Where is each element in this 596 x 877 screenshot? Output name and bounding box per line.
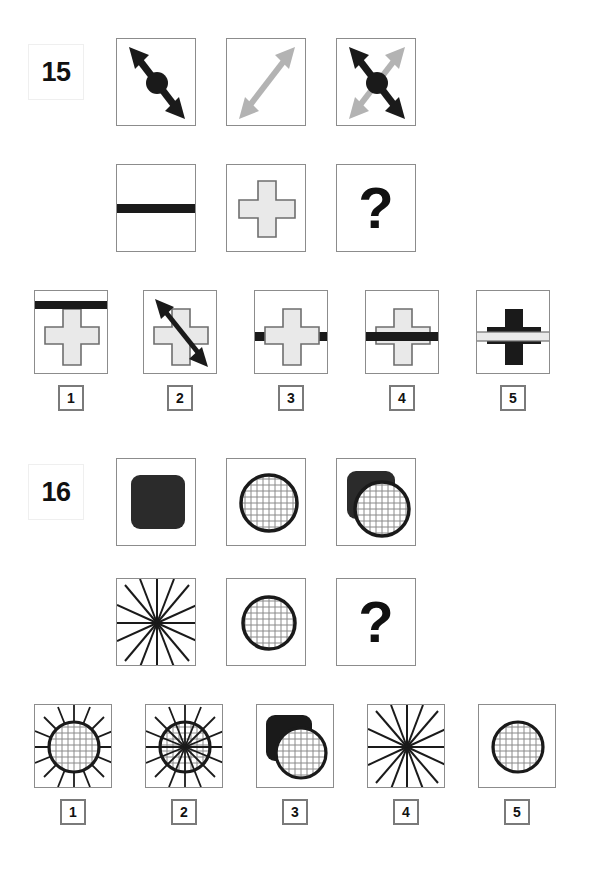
grid-circle-only-icon [479,705,556,788]
starburst-icon [368,705,445,788]
combined-arrows-icon [337,39,416,126]
item16-matrix-cell-3 [336,458,416,546]
item15-matrix-cell-5 [226,164,306,252]
grid-circle-with-outer-rays-icon [35,705,112,788]
item16-matrix-cell-2 [226,458,306,546]
dark-horizontal-bar-icon [117,165,196,252]
item16-option-label-4[interactable]: 4 [393,799,419,825]
grid-circle-icon [227,579,306,666]
item16-matrix-cell-5 [226,578,306,666]
item15-matrix-cell-1 [116,38,196,126]
item16-matrix-cell-4 [116,578,196,666]
square-and-grid-circle-icon [257,705,334,788]
item15-matrix-cell-4 [116,164,196,252]
grid-circle-icon [227,459,306,546]
dark-cross-with-light-bar-icon [477,291,550,374]
item15-matrix-cell-3 [336,38,416,126]
item16-option-label-1[interactable]: 1 [60,799,86,825]
item15-option-label-4[interactable]: 4 [389,385,415,411]
item16-option-1[interactable] [34,704,112,788]
starburst-icon [117,579,196,666]
item16-matrix-cell-1 [116,458,196,546]
question-mark-label: ? [337,165,415,251]
item15-option-label-2[interactable]: 2 [167,385,193,411]
item16-matrix-cell-6-question: ? [336,578,416,666]
item15-option-2[interactable] [143,290,217,374]
item16-option-label-3[interactable]: 3 [282,799,308,825]
dark-rounded-square-icon [117,459,196,546]
light-cross-icon [227,165,306,252]
item15-matrix-cell-6-question: ? [336,164,416,252]
item15-option-label-5[interactable]: 5 [500,385,526,411]
question-mark-label: ? [337,579,415,665]
item15-option-5[interactable] [476,290,550,374]
cross-with-diagonal-arrow-icon [144,291,217,374]
dark-arrow-with-dot-icon [117,39,196,126]
item16-option-4[interactable] [367,704,445,788]
item16-option-label-2[interactable]: 2 [171,799,197,825]
cross-with-bar-on-top-edge-icon [35,291,108,374]
item-number-15: 15 [28,44,84,100]
item15-option-label-3[interactable]: 3 [278,385,304,411]
square-and-circle-icon [337,459,416,546]
item16-option-label-5[interactable]: 5 [504,799,530,825]
item15-matrix-cell-2 [226,38,306,126]
grid-circle-with-full-starburst-icon [146,705,223,788]
bar-in-front-of-cross-icon [366,291,439,374]
item15-option-4[interactable] [365,290,439,374]
item16-option-2[interactable] [145,704,223,788]
item16-option-5[interactable] [478,704,556,788]
item15-option-3[interactable] [254,290,328,374]
bar-behind-cross-icon [255,291,328,374]
test-page: 15 [0,0,596,877]
item16-option-3[interactable] [256,704,334,788]
gray-arrow-icon [227,39,306,126]
item15-option-1[interactable] [34,290,108,374]
item15-option-label-1[interactable]: 1 [58,385,84,411]
item-number-16: 16 [28,464,84,520]
